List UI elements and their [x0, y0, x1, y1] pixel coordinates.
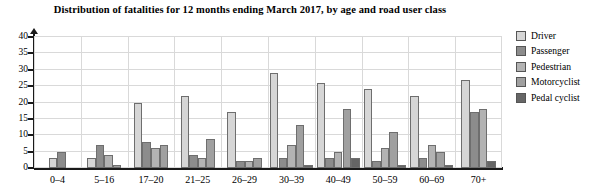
legend-item-label: Pedestrian [531, 62, 571, 72]
y-axis-tick [28, 151, 34, 153]
gridline-vertical [221, 37, 222, 168]
bar [461, 80, 470, 168]
bar [113, 165, 122, 168]
chart-legend: DriverPassengerPedestrianMotorcyclistPed… [516, 28, 580, 106]
legend-item[interactable]: Passenger [516, 44, 580, 60]
y-axis-tick [28, 36, 34, 38]
bar [270, 73, 279, 168]
chart-title: Distribution of fatalities for 12 months… [0, 4, 500, 15]
x-axis-tick-label: 50–59 [362, 174, 409, 185]
y-axis-tick-label: 5 [2, 147, 28, 157]
legend-item-label: Pedal cyclist [531, 93, 580, 103]
y-axis-tick-label: 30 [2, 65, 28, 75]
gridline-vertical [268, 37, 269, 168]
bar [381, 148, 390, 168]
legend-item-label: Driver [531, 31, 556, 41]
x-axis-tick-label: 5–16 [81, 174, 128, 185]
bar [398, 165, 407, 168]
bar [253, 158, 262, 168]
legend-swatch-icon [516, 62, 526, 72]
y-axis-tick-label: 15 [2, 114, 28, 124]
bar [325, 158, 334, 168]
x-axis-tick-label: 26–29 [221, 174, 268, 185]
legend-item-label: Motorcyclist [531, 77, 580, 87]
bar [142, 142, 151, 168]
gridline-vertical [34, 37, 35, 168]
bar [343, 109, 352, 168]
bar [351, 158, 360, 168]
x-axis-tick-label: 40–49 [315, 174, 362, 185]
bar [87, 158, 96, 168]
gridline-vertical [455, 37, 456, 168]
legend-swatch-icon [516, 31, 526, 41]
y-axis-tick-label: 25 [2, 81, 28, 91]
gridline-vertical [81, 37, 82, 168]
plot-area [34, 37, 502, 168]
gridline-vertical [174, 37, 175, 168]
y-axis-tick [28, 167, 34, 169]
x-axis-tick-label: 70+ [455, 174, 502, 185]
y-axis-tick [28, 85, 34, 87]
gridline-vertical [315, 37, 316, 168]
bar [410, 96, 419, 168]
x-axis-tick-label: 60–69 [408, 174, 455, 185]
bar [334, 152, 343, 168]
x-axis-tick-label: 17–20 [128, 174, 175, 185]
bar [428, 145, 437, 168]
gridline-vertical [128, 37, 129, 168]
gridline-vertical [408, 37, 409, 168]
bar [436, 152, 445, 168]
bar [317, 83, 326, 168]
bar [419, 158, 428, 168]
bar [245, 161, 254, 168]
bar [236, 161, 245, 168]
legend-item[interactable]: Motorcyclist [516, 75, 580, 91]
y-axis-tick-label: 35 [2, 48, 28, 58]
legend-swatch-icon [516, 77, 526, 87]
y-axis-tick-label: 40 [2, 32, 28, 42]
gridline-vertical [501, 37, 502, 168]
legend-swatch-icon [516, 46, 526, 56]
y-axis-tick-label: 0 [2, 163, 28, 173]
y-axis-tick [28, 118, 34, 120]
bar [189, 155, 198, 168]
bar [198, 158, 207, 168]
chart-container: Distribution of fatalities for 12 months… [0, 0, 608, 195]
y-axis-tick-label: 20 [2, 98, 28, 108]
bar [372, 161, 381, 168]
y-axis-tick [28, 69, 34, 71]
x-axis-tick-label: 21–25 [174, 174, 221, 185]
bar [206, 139, 215, 168]
bar [227, 112, 236, 168]
x-axis-tick-label: 30–39 [268, 174, 315, 185]
bar [487, 161, 496, 168]
x-axis-tick-label: 0–4 [34, 174, 81, 185]
bar [96, 145, 105, 168]
bar [160, 145, 169, 168]
bar [287, 145, 296, 168]
y-axis-tick [28, 52, 34, 54]
bar [104, 155, 113, 168]
bar [364, 89, 373, 168]
legend-item[interactable]: Driver [516, 28, 580, 44]
y-axis-tick [28, 134, 34, 136]
bar [279, 158, 288, 168]
bar [181, 96, 190, 168]
bar [304, 165, 313, 168]
legend-swatch-icon [516, 93, 526, 103]
legend-item-label: Passenger [531, 46, 569, 56]
legend-item[interactable]: Pedal cyclist [516, 90, 580, 106]
y-axis-tick-label: 10 [2, 130, 28, 140]
bar [470, 112, 479, 168]
y-axis-tick [28, 102, 34, 104]
legend-item[interactable]: Pedestrian [516, 59, 580, 75]
bar [49, 158, 58, 168]
bar [479, 109, 488, 168]
bar [445, 165, 454, 168]
bar [296, 125, 305, 168]
bar [151, 148, 160, 168]
gridline-vertical [362, 37, 363, 168]
bar [57, 152, 66, 168]
bar [389, 132, 398, 168]
bar [134, 103, 143, 169]
